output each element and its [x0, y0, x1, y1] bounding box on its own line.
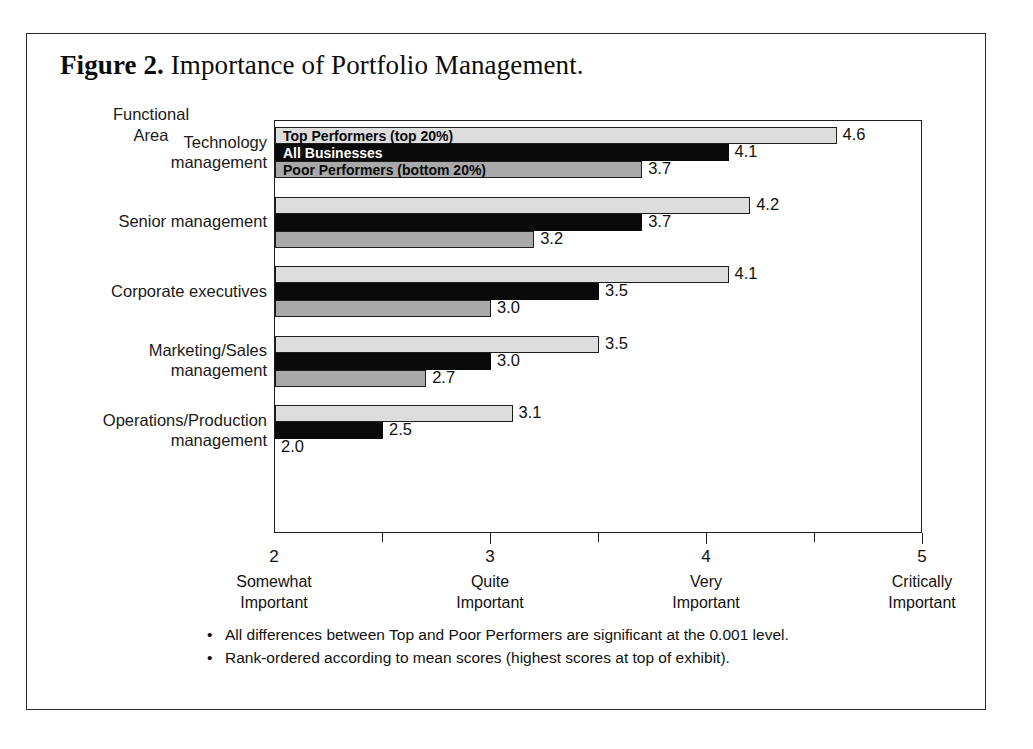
bar-poor[interactable] [275, 370, 426, 387]
chart-plot-area: Top Performers (top 20%)4.6All Businesse… [274, 120, 922, 533]
category-label-line: Senior management [37, 211, 267, 231]
bar-value-label: 3.5 [599, 334, 628, 353]
bar-row: All Businesses4.1 [275, 144, 921, 161]
bar-row: 3.0 [275, 300, 921, 317]
footnote-text: All differences between Top and Poor Per… [225, 626, 789, 643]
x-tick-description-line: Important [631, 592, 781, 613]
x-tick-minor [382, 533, 383, 542]
bar-value-label: 3.0 [491, 298, 520, 317]
bar-row: 3.0 [275, 353, 921, 370]
category-label-line: Corporate executives [37, 281, 267, 301]
bar-value-label: 3.2 [534, 229, 563, 248]
figure-title-text: Importance of Portfolio Management. [171, 50, 584, 80]
figure-number: Figure 2. [60, 50, 164, 80]
x-tick-description: CriticallyImportant [847, 571, 997, 613]
bar-value-label: 4.1 [729, 142, 758, 161]
category-label-line: Marketing/Sales [37, 340, 267, 360]
bar-value-label: 3.5 [599, 281, 628, 300]
figure-frame: Figure 2. Importance of Portfolio Manage… [26, 33, 986, 710]
x-tick-description: SomewhatImportant [199, 571, 349, 613]
x-tick-description: VeryImportant [631, 571, 781, 613]
bar-row: 4.2 [275, 197, 921, 214]
x-tick-description-line: Very [631, 571, 781, 592]
x-tick-description-line: Important [847, 592, 997, 613]
bar-group: 3.53.02.7 [275, 336, 921, 387]
bar-all[interactable] [275, 214, 642, 231]
bar-all[interactable] [275, 353, 491, 370]
category-label: Technologymanagement [37, 132, 267, 172]
bar-group: Top Performers (top 20%)4.6All Businesse… [275, 127, 921, 178]
footnotes-list: •All differences between Top and Poor Pe… [205, 623, 925, 669]
category-label: Operations/Productionmanagement [37, 410, 267, 450]
footnote-text: Rank-ordered according to mean scores (h… [225, 649, 730, 666]
x-tick-major [706, 533, 707, 544]
category-label: Marketing/Salesmanagement [37, 340, 267, 380]
bar-value-label: 4.2 [750, 195, 779, 214]
footnote-item: •All differences between Top and Poor Pe… [205, 623, 925, 646]
x-tick-description-line: Important [415, 592, 565, 613]
bar-top[interactable] [275, 197, 750, 214]
category-label-line: Operations/Production [37, 410, 267, 430]
bar-row: 4.1 [275, 266, 921, 283]
legend-label-all: All Businesses [283, 145, 383, 162]
x-tick-major [922, 533, 923, 544]
bar-row: 2.5 [275, 422, 921, 439]
x-tick-minor [814, 533, 815, 542]
legend-label-poor: Poor Performers (bottom 20%) [283, 162, 486, 179]
x-tick-description-line: Quite [415, 571, 565, 592]
footnote-item: •Rank-ordered according to mean scores (… [205, 646, 925, 669]
bullet-icon: • [207, 646, 212, 669]
bar-poor[interactable] [275, 231, 534, 248]
x-tick-description-line: Important [199, 592, 349, 613]
category-label-line: Technology [37, 132, 267, 152]
bar-value-label: 4.6 [837, 125, 866, 144]
bar-top[interactable] [275, 336, 599, 353]
x-tick-minor [598, 533, 599, 542]
bar-poor[interactable] [275, 300, 491, 317]
x-tick-label: 5 [862, 547, 982, 567]
page-title: Figure 2. Importance of Portfolio Manage… [60, 50, 584, 81]
bar-top[interactable] [275, 266, 729, 283]
bar-row: 3.7 [275, 214, 921, 231]
bar-value-label: 2.5 [383, 420, 412, 439]
bar-value-label: 2.7 [426, 368, 455, 387]
category-label: Corporate executives [37, 281, 267, 301]
bar-row: 2.7 [275, 370, 921, 387]
bar-row: 3.5 [275, 283, 921, 300]
bar-all[interactable] [275, 283, 599, 300]
bar-row: 3.1 [275, 405, 921, 422]
bar-row: 3.5 [275, 336, 921, 353]
bar-value-label: 3.0 [491, 351, 520, 370]
bar-poor[interactable]: Poor Performers (bottom 20%) [275, 161, 642, 178]
bar-value-label: 2.0 [275, 437, 304, 456]
bar-group: 3.12.52.0 [275, 405, 921, 456]
x-tick-description: QuiteImportant [415, 571, 565, 613]
bar-value-label: 4.1 [729, 264, 758, 283]
legend-label-top: Top Performers (top 20%) [283, 128, 453, 145]
x-tick-description-line: Somewhat [199, 571, 349, 592]
x-tick-description-line: Critically [847, 571, 997, 592]
x-tick-label: 3 [430, 547, 550, 567]
category-label-line: management [37, 360, 267, 380]
x-tick-label: 4 [646, 547, 766, 567]
bar-group: 4.13.53.0 [275, 266, 921, 317]
category-label: Senior management [37, 211, 267, 231]
bar-row: 3.2 [275, 231, 921, 248]
x-tick-major [490, 533, 491, 544]
bar-group: 4.23.73.2 [275, 197, 921, 248]
category-axis-labels: TechnologymanagementSenior managementCor… [27, 120, 267, 533]
bar-value-label: 3.1 [513, 403, 542, 422]
bullet-icon: • [207, 623, 212, 646]
x-tick-label: 2 [214, 547, 334, 567]
bar-row: 2.0 [275, 439, 921, 456]
bar-value-label: 3.7 [642, 212, 671, 231]
bar-row: Poor Performers (bottom 20%)3.7 [275, 161, 921, 178]
bar-row: Top Performers (top 20%)4.6 [275, 127, 921, 144]
category-label-line: management [37, 152, 267, 172]
category-label-line: management [37, 430, 267, 450]
bar-value-label: 3.7 [642, 159, 671, 178]
